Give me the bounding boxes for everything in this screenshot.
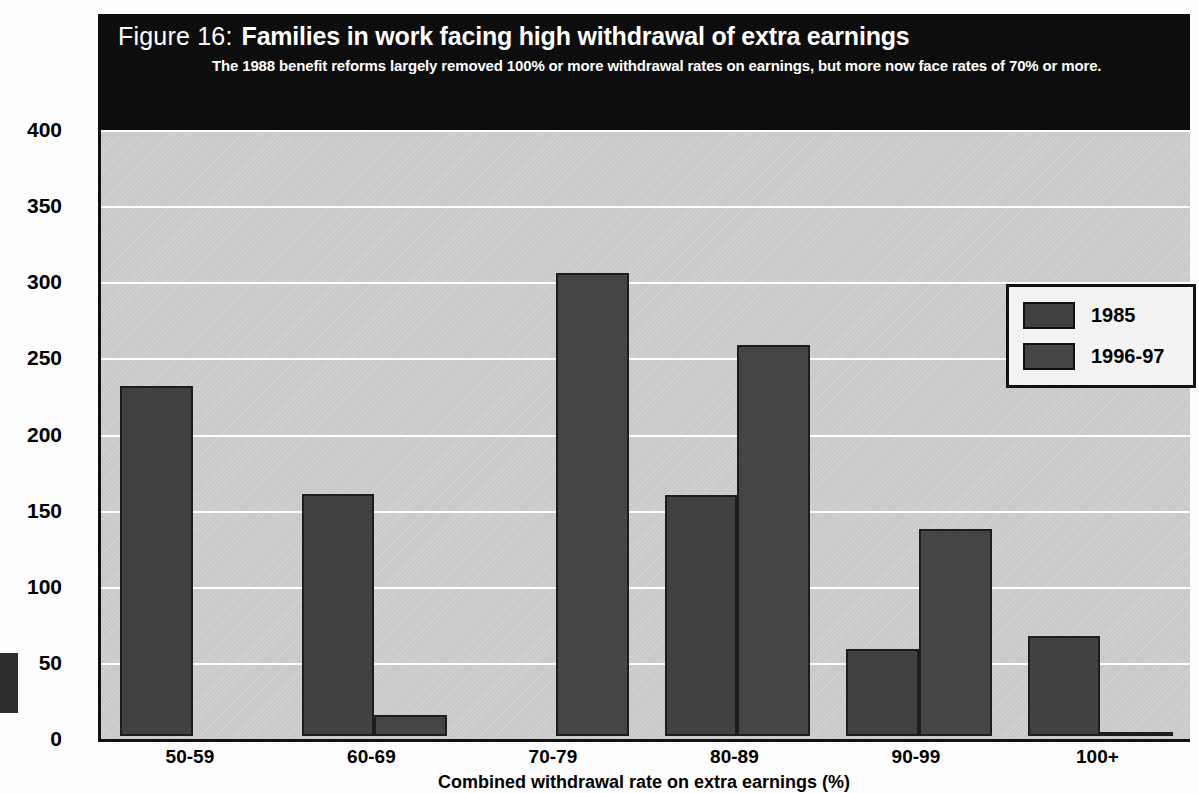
legend-label: 1985 [1091, 304, 1136, 327]
bar-group [830, 130, 1012, 736]
figure-title-line: Figure 16: Families in work facing high … [118, 22, 1190, 51]
y-axis-tick-label: 0 [50, 727, 62, 751]
x-axis-tick-label: 60-69 [347, 746, 396, 768]
y-axis-tick-label: 200 [27, 423, 62, 447]
figure-number: Figure 16: [118, 22, 233, 51]
legend-swatch-icon [1023, 343, 1075, 370]
figure-header: Figure 16: Families in work facing high … [98, 14, 1190, 130]
legend-item[interactable]: 1985 [1023, 302, 1193, 329]
legend-item[interactable]: 1996-97 [1023, 343, 1193, 370]
x-axis-tick-label: 50-59 [166, 746, 215, 768]
y-axis-tick-label: 150 [27, 499, 62, 523]
bar-1985-80-89[interactable] [665, 495, 738, 736]
bar-1996-97-60-69[interactable] [374, 715, 447, 736]
bar-1985-100+[interactable] [1028, 636, 1101, 736]
y-axis-tick-label: 100 [27, 575, 62, 599]
figure-container: Figure 16: Families in work facing high … [68, 14, 1190, 774]
bar-group [286, 130, 468, 736]
x-axis-tick-label: 80-89 [710, 746, 759, 768]
bar-group [104, 130, 286, 736]
bar-1996-97-100+[interactable] [1100, 732, 1173, 736]
chart-legend: 19851996-97 [1006, 284, 1196, 388]
plot-area [98, 130, 1190, 742]
x-axis-tick-label: 90-99 [892, 746, 941, 768]
bar-1985-50-59[interactable] [120, 386, 193, 736]
bar-group [649, 130, 831, 736]
legend-label: 1996-97 [1091, 345, 1164, 368]
y-axis-tick-label: 350 [27, 194, 62, 218]
y-axis-tick-label: 50 [39, 651, 62, 675]
bar-group [467, 130, 649, 736]
y-axis-tick-label: 400 [27, 118, 62, 142]
page-title: Families in work facing high withdrawal … [242, 22, 910, 51]
x-axis-title: Combined withdrawal rate on extra earnin… [98, 772, 1190, 793]
bar-1996-97-80-89[interactable] [737, 345, 810, 736]
y-axis-tick-label: 300 [27, 270, 62, 294]
x-axis-tick-label: 70-79 [529, 746, 578, 768]
x-axis-ticks: 50-5960-6970-7980-8990-99100+ [98, 746, 1190, 772]
y-axis-ticks: 050100150200250300350400 [0, 130, 62, 742]
plot-wrapper: 19851996-97 [98, 130, 1190, 742]
bar-1985-60-69[interactable] [302, 494, 375, 736]
bar-series-container [104, 130, 1190, 736]
legend-swatch-icon [1023, 302, 1075, 329]
y-axis-tick-label: 250 [27, 346, 62, 370]
bar-1996-97-90-99[interactable] [919, 529, 992, 736]
figure-subtitle: The 1988 benefit reforms largely removed… [212, 55, 1152, 76]
bar-group [1012, 130, 1194, 736]
bar-1985-90-99[interactable] [846, 649, 919, 736]
x-axis-tick-label: 100+ [1076, 746, 1119, 768]
bar-1996-97-70-79[interactable] [556, 273, 629, 736]
